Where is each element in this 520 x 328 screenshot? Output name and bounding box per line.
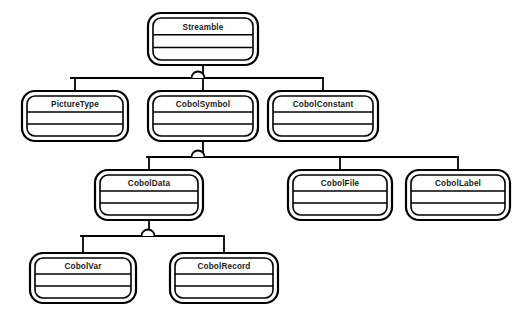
class-box-streamble[interactable]: Streamble [148,13,258,65]
class-box-cobolconstant[interactable]: CobolConstant [268,91,378,141]
class-name-label: Streamble [183,23,224,32]
generalization-gen-streamble [71,65,323,91]
generalization-gen-cobolsymbol [147,141,458,170]
class-diagram-canvas: StreamblePictureTypeCobolSymbolCobolCons… [0,0,520,328]
class-name-label: CobolData [128,179,171,188]
class-name-label: PictureType [51,100,99,109]
classes-layer: StreamblePictureTypeCobolSymbolCobolCons… [22,13,510,303]
generalization-gen-coboldata [81,220,224,253]
generalization-marker [142,230,155,237]
class-box-cobolfile[interactable]: CobolFile [288,170,392,220]
class-diagram-svg: StreamblePictureTypeCobolSymbolCobolCons… [0,0,520,328]
class-name-label: CobolFile [321,179,360,188]
class-name-label: CobolConstant [293,100,354,109]
class-box-cobolrecord[interactable]: CobolRecord [170,253,278,303]
class-box-coboldata[interactable]: CobolData [95,170,203,220]
class-name-label: CobolLabel [435,179,481,188]
connectors-layer [71,65,458,253]
generalization-marker [192,151,205,158]
class-name-label: CobolRecord [197,262,250,271]
class-box-cobollabel[interactable]: CobolLabel [406,170,510,220]
class-box-picturetype[interactable]: PictureType [22,91,128,141]
class-box-cobolvar[interactable]: CobolVar [30,253,136,303]
class-name-label: CobolSymbol [176,100,230,109]
generalization-marker [192,72,205,79]
class-name-label: CobolVar [64,262,102,271]
class-box-cobolsymbol[interactable]: CobolSymbol [148,91,258,141]
